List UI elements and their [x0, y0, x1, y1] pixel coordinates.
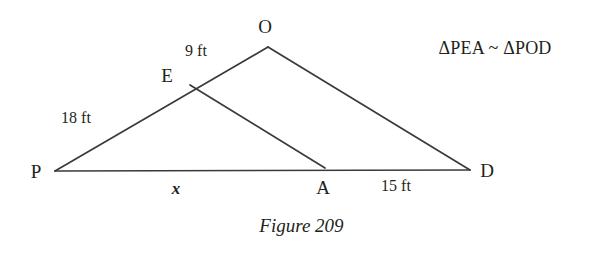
vertex-label-P: P — [31, 162, 42, 181]
measure-label-PA-unknown: x — [172, 180, 181, 197]
measure-label-AD: 15 ft — [381, 178, 411, 194]
similarity-statement: ΔPEA ~ ΔPOD — [438, 39, 551, 57]
segment-P-to-D — [55, 170, 470, 171]
vertex-label-E: E — [161, 66, 173, 85]
vertex-label-A: A — [316, 178, 330, 197]
figure-container: P O D E A 9 ft 18 ft x 15 ft ΔPEA ~ ΔPOD… — [0, 0, 603, 256]
vertex-label-D: D — [480, 161, 494, 180]
figure-caption: Figure 209 — [0, 216, 603, 235]
segment-E-to-A — [190, 85, 325, 168]
measure-label-EO: 9 ft — [185, 43, 207, 59]
vertex-label-O: O — [258, 17, 272, 36]
measure-label-PE: 18 ft — [61, 110, 91, 126]
